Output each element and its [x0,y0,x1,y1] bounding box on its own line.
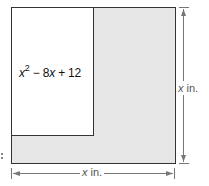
arrow-right-icon [166,171,173,176]
stray-colon-mark [1,153,3,159]
width-label-unit: in. [88,166,103,178]
area-diagram: x2 − 8x + 12 x in. x in. [0,0,209,186]
height-label: x in. [178,81,198,95]
arrow-up-icon [181,9,186,16]
width-label: x in. [80,166,104,178]
arrow-down-icon [181,155,186,162]
arrow-left-icon [13,171,20,176]
height-label-unit: in. [184,82,199,94]
